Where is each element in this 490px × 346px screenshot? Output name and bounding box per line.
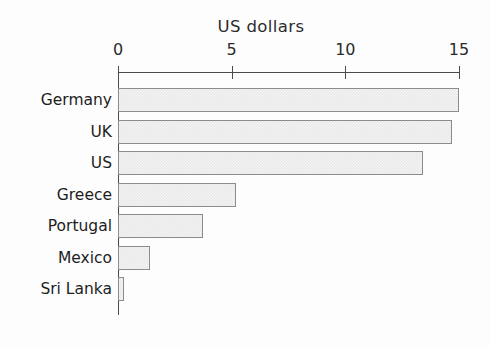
bar-row: Mexico — [0, 246, 490, 270]
category-label-germany: Germany — [41, 93, 112, 109]
category-label-us: US — [91, 156, 112, 172]
bar-portugal — [118, 214, 203, 238]
bar-chart: US dollars 051015 GermanyUKUSGreecePortu… — [0, 0, 490, 346]
category-label-greece: Greece — [57, 188, 112, 204]
bar-uk — [118, 120, 452, 144]
category-label-portugal: Portugal — [48, 219, 112, 235]
bar-row: UK — [0, 120, 490, 144]
bar-row: Portugal — [0, 214, 490, 238]
bar-row: US — [0, 151, 490, 175]
bar-us — [118, 151, 423, 175]
bar-sri-lanka — [118, 277, 124, 301]
bar-series: GermanyUKUSGreecePortugalMexicoSri Lanka — [0, 0, 490, 346]
bar-row: Germany — [0, 88, 490, 112]
bar-mexico — [118, 246, 150, 270]
bar-row: Sri Lanka — [0, 277, 490, 301]
category-label-sri-lanka: Sri Lanka — [40, 282, 112, 298]
bar-row: Greece — [0, 183, 490, 207]
bar-greece — [118, 183, 236, 207]
bar-germany — [118, 88, 459, 112]
category-label-mexico: Mexico — [58, 251, 112, 267]
category-label-uk: UK — [90, 125, 112, 141]
